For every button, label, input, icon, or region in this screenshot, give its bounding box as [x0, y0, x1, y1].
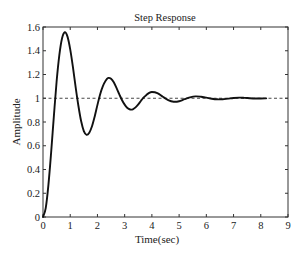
x-tick-label: 0 — [40, 220, 45, 231]
x-tick-label: 3 — [122, 220, 127, 231]
y-tick-label: 1 — [35, 93, 40, 104]
y-tick-label: 1.4 — [27, 45, 41, 56]
y-tick-label: 0.6 — [27, 140, 40, 151]
y-tick-label: 0.4 — [27, 164, 41, 175]
x-tick-label: 7 — [231, 220, 236, 231]
x-tick-label: 8 — [258, 220, 263, 231]
x-tick-label: 1 — [68, 220, 73, 231]
y-tick-label: 1.6 — [27, 22, 40, 33]
plot-area-frame — [43, 27, 288, 217]
y-axis-label: Amplitude — [10, 98, 22, 145]
x-tick-label: 2 — [95, 220, 100, 231]
x-tick-label: 4 — [149, 220, 155, 231]
x-axis-label: Time(sec) — [135, 233, 180, 246]
chart-canvas: Step Response 0123456789 00.20.40.60.811… — [0, 0, 303, 254]
chart-title: Step Response — [134, 12, 196, 23]
y-tick-label: 1.2 — [27, 69, 40, 80]
y-tick-label: 0 — [35, 212, 40, 223]
x-tick-label: 5 — [176, 220, 181, 231]
step-response-chart: Step Response 0123456789 00.20.40.60.811… — [0, 0, 303, 254]
x-tick-label: 9 — [285, 220, 290, 231]
y-tick-label: 0.8 — [27, 117, 40, 128]
x-tick-label: 6 — [204, 220, 209, 231]
y-tick-label: 0.2 — [27, 188, 40, 199]
